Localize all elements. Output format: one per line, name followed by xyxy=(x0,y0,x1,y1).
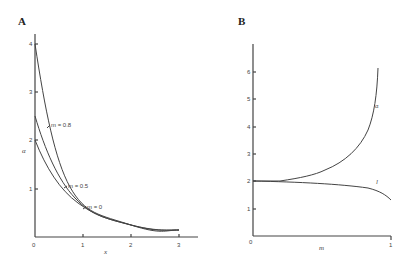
panel-a-ylabel: α xyxy=(22,147,26,155)
panel-a-xtick-3: 3 xyxy=(177,242,181,248)
panel-a-xlabel: x xyxy=(103,248,108,256)
panel-b-xtick-1: 1 xyxy=(389,242,393,248)
annotation-m-0.5: m = 0.5 xyxy=(68,183,89,189)
panel-a-ytick-2: 2 xyxy=(29,137,33,143)
curve-m-0.5 xyxy=(35,116,179,230)
panel-b: B 6 5 4 3 2 1 0 1 m α l xyxy=(238,15,393,252)
panel-b-ytick-6: 6 xyxy=(247,69,251,75)
panel-a-ytick-3: 3 xyxy=(29,89,33,95)
curve-l xyxy=(253,181,391,200)
annotation-m-0.8: m = 0.8 xyxy=(51,122,72,128)
panel-a: A 4 3 2 1 0 1 2 3 x α xyxy=(18,15,198,256)
panel-b-ytick-4: 4 xyxy=(247,124,251,130)
panel-b-xlabel: m xyxy=(319,244,324,252)
panel-a-xtick-2: 2 xyxy=(129,242,133,248)
panel-a-label: A xyxy=(18,15,26,27)
annotation-alpha: α xyxy=(375,103,379,109)
panel-a-xtick-1: 1 xyxy=(81,242,85,248)
curve-alpha xyxy=(253,68,378,181)
panel-b-ytick-1: 1 xyxy=(247,206,251,212)
panel-a-y-ticks: 4 3 2 1 xyxy=(29,41,38,192)
panel-b-ytick-3: 3 xyxy=(247,151,251,157)
figure: A 4 3 2 1 0 1 2 3 x α xyxy=(0,0,409,263)
panel-a-x-ticks: 0 1 2 3 xyxy=(32,234,181,248)
panel-a-origin: 0 xyxy=(32,242,36,248)
panel-b-ytick-2: 2 xyxy=(247,178,251,184)
curve-m-0.8 xyxy=(35,44,179,231)
panel-b-origin: 0 xyxy=(249,239,253,245)
panel-a-ytick-1: 1 xyxy=(29,186,33,192)
panel-b-label: B xyxy=(238,15,246,27)
panel-b-y-ticks: 6 5 4 3 2 1 xyxy=(247,69,256,212)
panel-a-ytick-4: 4 xyxy=(29,41,33,47)
annotation-m-0: m = 0 xyxy=(87,204,103,210)
annotation-l: l xyxy=(376,178,378,186)
panel-b-ytick-5: 5 xyxy=(247,96,251,102)
